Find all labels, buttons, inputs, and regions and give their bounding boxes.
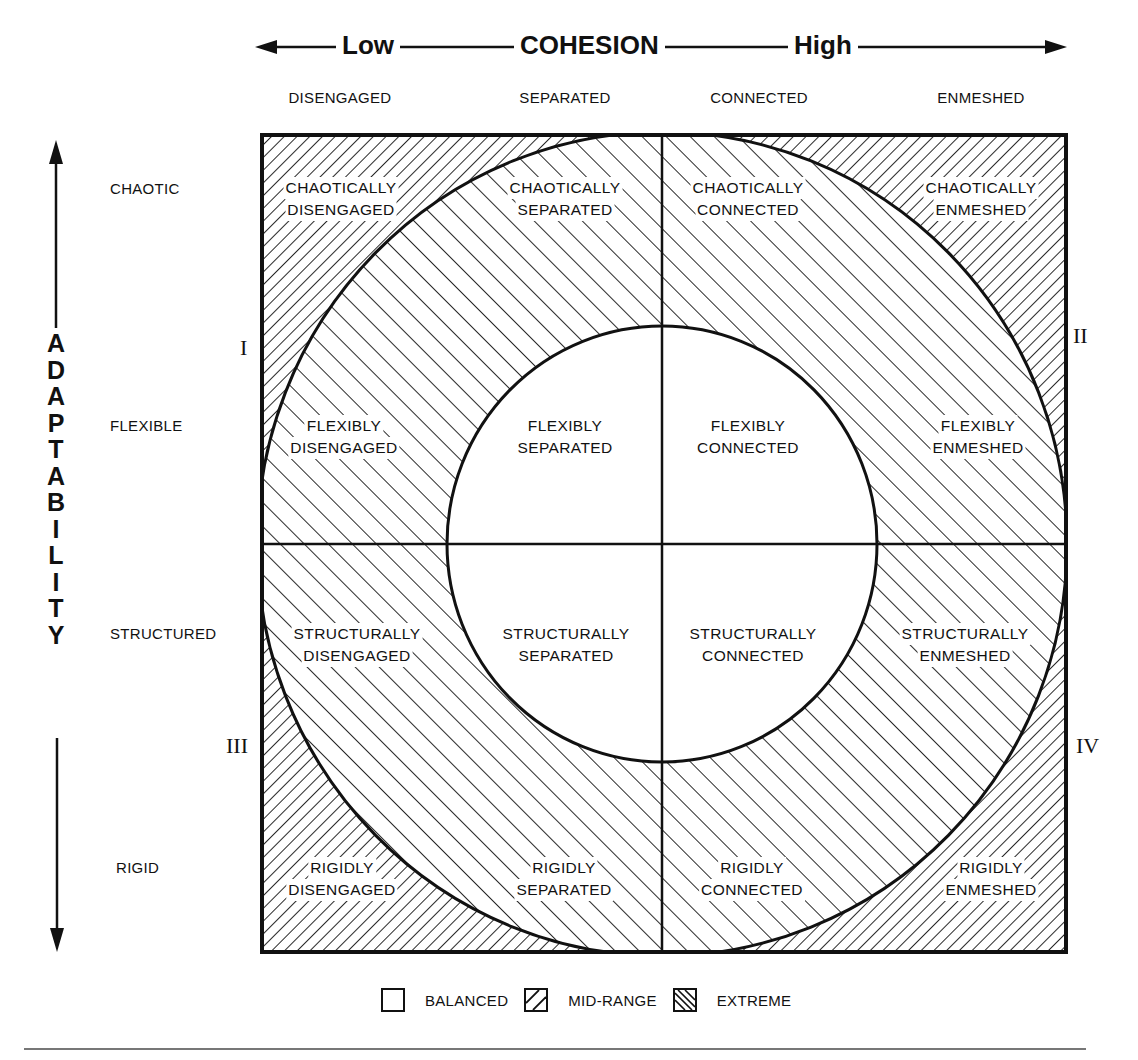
legend-label-extreme: EXTREME [717,992,792,1009]
cell-flexibly-separated: FLEXIBLYSEPARATED [515,415,614,459]
cell-rigidly-separated: RIGIDLYSEPARATED [514,857,613,901]
cell-rigidly-disengaged: RIGIDLYDISENGAGED [286,857,397,901]
cell-chaotically-separated: CHAOTICALLYSEPARATED [508,177,623,221]
cell-structurally-enmeshed: STRUCTURALLYENMESHED [900,623,1031,667]
circumplex-model [0,0,1138,1060]
cell-flexibly-enmeshed: FLEXIBLYENMESHED [930,415,1025,459]
cell-structurally-disengaged: STRUCTURALLYDISENGAGED [292,623,423,667]
legend-label-mid-range: MID-RANGE [568,992,657,1009]
bottom-rule [24,1048,1086,1050]
quadrant-numeral-iii: III [226,735,248,757]
quadrant-numeral-iv: IV [1076,735,1099,757]
cell-structurally-connected: STRUCTURALLYCONNECTED [688,623,819,667]
cell-flexibly-disengaged: FLEXIBLYDISENGAGED [288,415,399,459]
quadrant-numeral-ii: II [1073,325,1088,347]
legend-label-balanced: BALANCED [425,992,508,1009]
legend-swatch-mid-range [524,988,548,1012]
cell-chaotically-connected: CHAOTICALLYCONNECTED [691,177,806,221]
cell-structurally-separated: STRUCTURALLYSEPARATED [501,623,632,667]
legend: BALANCED MID-RANGE EXTREME [381,985,807,1015]
legend-swatch-extreme [673,988,697,1012]
cell-rigidly-connected: RIGIDLYCONNECTED [699,857,805,901]
quadrant-numeral-i: I [240,337,247,359]
cell-chaotically-enmeshed: CHAOTICALLYENMESHED [924,177,1039,221]
cell-rigidly-enmeshed: RIGIDLYENMESHED [943,857,1038,901]
cell-flexibly-connected: FLEXIBLYCONNECTED [695,415,801,459]
cell-chaotically-disengaged: CHAOTICALLYDISENGAGED [284,177,399,221]
legend-swatch-balanced [381,988,405,1012]
